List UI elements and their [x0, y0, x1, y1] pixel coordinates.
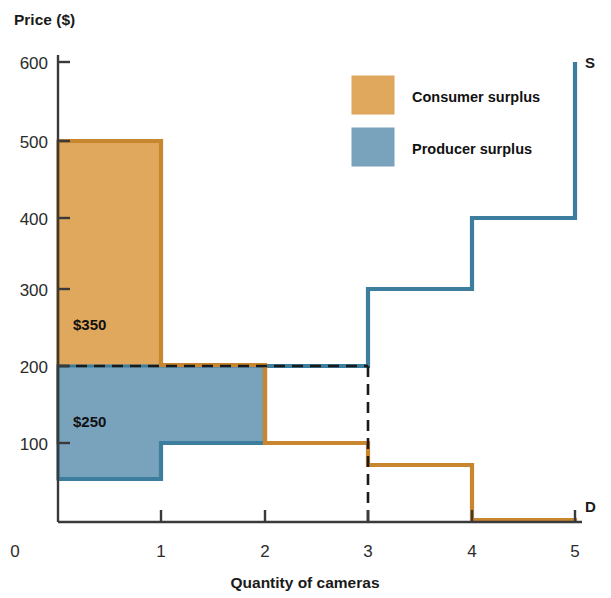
chart-legend: Consumer surplus Producer surplus — [352, 76, 540, 166]
legend-swatch-consumer-surplus — [352, 76, 394, 114]
x-tick-label-0: 0 — [10, 542, 19, 561]
supply-curve-label: S — [585, 54, 595, 71]
y-tick-label-200: 200 — [20, 358, 48, 377]
x-tick-label-5: 5 — [570, 542, 579, 561]
x-axis-title: Quantity of cameras — [230, 574, 379, 591]
y-tick-label-400: 400 — [20, 210, 48, 229]
y-tick-label-600: 600 — [20, 54, 48, 73]
chart-canvas: Price ($) 600 500 400 30 — [0, 0, 611, 598]
y-tick-label-500: 500 — [20, 133, 48, 152]
surplus-chart: Price ($) 600 500 400 30 — [0, 0, 611, 598]
producer-surplus-value-label: $250 — [73, 413, 106, 430]
y-tick-label-300: 300 — [20, 281, 48, 300]
y-axis-title: Price ($) — [14, 11, 75, 28]
demand-curve-label: D — [585, 498, 596, 515]
y-tick-label-100: 100 — [20, 435, 48, 454]
x-tick-label-3: 3 — [363, 542, 372, 561]
legend-swatch-producer-surplus — [352, 128, 394, 166]
legend-label-producer-surplus: Producer surplus — [412, 141, 532, 157]
consumer-surplus-value-label: $350 — [73, 316, 106, 333]
x-tick-label-2: 2 — [260, 542, 269, 561]
legend-label-consumer-surplus: Consumer surplus — [412, 89, 540, 105]
x-tick-label-4: 4 — [467, 542, 476, 561]
x-tick-label-1: 1 — [156, 542, 165, 561]
